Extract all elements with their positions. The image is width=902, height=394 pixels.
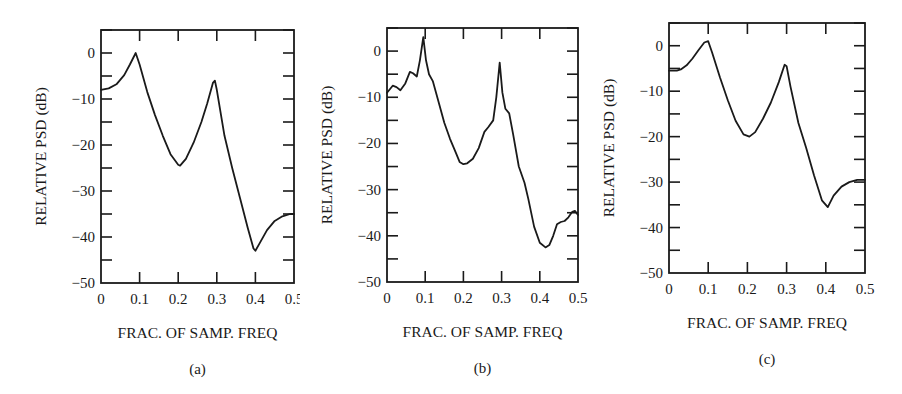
x-tick-label: 0 [383,290,391,306]
x-tick-label: 0.3 [777,281,796,297]
x-tick-label: 0.5 [569,290,588,306]
y-axis-label: RELATIVE PSD (dB) [32,87,50,226]
psd-curve [669,41,865,207]
x-tick-label: 0.4 [816,281,835,297]
panel-caption: (c) [759,351,776,368]
psd-curve [101,53,294,251]
x-tick-label: 0.1 [699,281,718,297]
chart-panel-b: 0−10−20−30−40−5000.10.20.30.40.5RELATIVE… [300,0,600,394]
y-tick-label: −30 [358,182,381,198]
x-tick-label: 0 [97,291,105,307]
y-tick-label: −40 [640,220,663,236]
y-tick-label: −20 [72,137,95,153]
x-tick-label: 0.3 [207,291,226,307]
plot-frame [101,30,294,283]
y-tick-label: −30 [72,183,95,199]
y-tick-label: 0 [656,38,664,54]
x-tick-label: 0.2 [454,290,473,306]
x-tick-label: 0 [665,281,673,297]
y-tick-label: −20 [640,129,663,145]
chart-b-svg: 0−10−20−30−40−5000.10.20.30.40.5RELATIVE… [300,0,600,394]
chart-a-svg: 0−10−20−30−40−5000.10.20.30.40.5RELATIVE… [0,0,300,394]
y-tick-label: −50 [640,265,663,281]
x-axis-label: FRAC. OF SAMP. FREQ [118,324,278,341]
y-tick-label: −30 [640,174,663,190]
y-tick-label: −50 [358,274,381,290]
y-axis-label: RELATIVE PSD (dB) [600,79,618,218]
y-tick-label: −50 [72,275,95,291]
x-tick-label: 0.5 [285,291,300,307]
x-axis-label: FRAC. OF SAMP. FREQ [687,314,847,331]
x-tick-label: 0.2 [169,291,188,307]
y-tick-label: −10 [640,83,663,99]
x-tick-label: 0.3 [492,290,511,306]
y-tick-label: 0 [374,43,382,59]
chart-c-svg: 0−10−20−30−40−5000.10.20.30.40.5RELATIVE… [600,0,902,394]
x-tick-label: 0.4 [530,290,549,306]
chart-panel-a: 0−10−20−30−40−5000.10.20.30.40.5RELATIVE… [0,0,300,394]
panel-caption: (b) [474,360,492,377]
y-tick-label: −40 [358,228,381,244]
x-tick-label: 0.5 [856,281,875,297]
y-tick-label: 0 [88,45,96,61]
x-tick-label: 0.2 [738,281,757,297]
y-tick-label: −20 [358,135,381,151]
panel-caption: (a) [189,361,206,378]
psd-curve [387,37,578,247]
x-tick-label: 0.1 [130,291,149,307]
y-tick-label: −10 [72,91,95,107]
x-axis-label: FRAC. OF SAMP. FREQ [403,323,563,340]
chart-panel-c: 0−10−20−30−40−5000.10.20.30.40.5RELATIVE… [600,0,902,394]
y-tick-label: −10 [358,89,381,105]
x-tick-label: 0.1 [416,290,435,306]
y-tick-label: −40 [72,229,95,245]
plot-frame [669,23,865,273]
y-axis-label: RELATIVE PSD (dB) [318,86,336,225]
x-tick-label: 0.4 [246,291,265,307]
